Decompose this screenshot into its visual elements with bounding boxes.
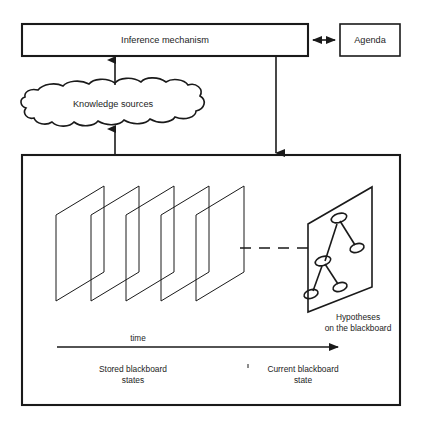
current-state-caption-line1: Current blackboard	[267, 364, 339, 374]
hypothesis-edge	[313, 266, 322, 291]
blackboard-container-box	[22, 155, 400, 405]
inference-mechanism-label: Inference mechanism	[121, 35, 209, 45]
blackboard-state-plane	[161, 186, 209, 301]
hypothesis-node	[314, 254, 332, 267]
knowledge-sources-label: Knowledge sources	[73, 99, 154, 109]
blackboard-state-plane	[56, 186, 104, 301]
hypothesis-edge	[325, 264, 338, 284]
blackboard-state-plane	[126, 186, 174, 301]
diagram-canvas: Inference mechanism Agenda Knowledge sou…	[0, 0, 424, 430]
current-state-caption-line2: state	[294, 375, 312, 385]
blackboard-state-plane	[91, 186, 139, 301]
time-axis-label: time	[130, 334, 146, 343]
stored-blackboard-states-group	[56, 186, 244, 301]
blackboard-state-plane	[196, 186, 244, 301]
hypothesis-graph-nodes	[303, 211, 365, 300]
hypotheses-caption-line1: Hypotheses	[336, 312, 380, 322]
hypotheses-caption-line2: on the blackboard	[325, 323, 392, 333]
stored-states-caption-line1: Stored blackboard	[99, 364, 167, 374]
blackboard-architecture-diagram: Inference mechanism Agenda Knowledge sou…	[0, 0, 424, 430]
hypothesis-edge	[340, 221, 355, 245]
current-blackboard-state-group	[303, 187, 372, 312]
hypothesis-graph-edges	[313, 221, 355, 291]
agenda-label: Agenda	[354, 35, 387, 45]
blackboard-container-node	[22, 155, 400, 405]
hypothesis-node	[303, 288, 319, 300]
hypothesis-node	[332, 281, 348, 293]
stored-states-caption-line2: states	[122, 375, 144, 385]
hypothesis-node	[330, 211, 348, 224]
hypothesis-node	[349, 242, 365, 254]
